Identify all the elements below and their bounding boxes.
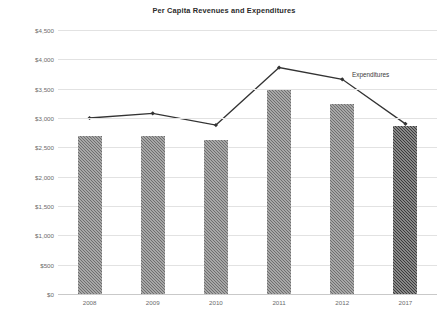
gridline <box>58 89 437 90</box>
gridline <box>58 265 437 266</box>
x-axis-tick-label: 2008 <box>60 299 120 306</box>
y-axis-tick-label: $2,500 <box>8 144 54 151</box>
plot-area <box>58 30 437 294</box>
y-axis-tick-label: $4,000 <box>8 56 54 63</box>
x-axis-tick-label: 2011 <box>249 299 309 306</box>
expenditures-line-series <box>58 30 437 294</box>
y-axis-tick-label: $2,000 <box>8 173 54 180</box>
bar-revenues <box>78 136 102 294</box>
gridline <box>58 206 437 207</box>
y-axis-tick-label: $3,000 <box>8 115 54 122</box>
gridline <box>58 235 437 236</box>
chart-container: Per Capita Revenues and Expenditures Exp… <box>0 0 448 317</box>
gridline <box>58 294 437 295</box>
bar-revenues <box>393 126 417 294</box>
gridline <box>58 118 437 119</box>
gridline <box>58 59 437 60</box>
chart-title: Per Capita Revenues and Expenditures <box>0 6 448 15</box>
bar-revenues <box>267 90 291 294</box>
y-axis-tick-label: $500 <box>8 261 54 268</box>
gridline <box>58 177 437 178</box>
x-axis-tick-label: 2012 <box>312 299 372 306</box>
y-axis-tick-label: $3,500 <box>8 85 54 92</box>
y-axis-tick-label: $4,500 <box>8 27 54 34</box>
y-axis-tick-label: $1,500 <box>8 203 54 210</box>
bar-revenues <box>141 136 165 294</box>
x-axis-tick-label: 2010 <box>186 299 246 306</box>
gridline <box>58 30 437 31</box>
series-label-expenditures: Expenditures <box>352 71 389 78</box>
y-axis-tick-label: $1,000 <box>8 232 54 239</box>
bar-revenues <box>330 104 354 294</box>
bar-revenues <box>204 140 228 294</box>
x-axis-tick-label: 2017 <box>375 299 435 306</box>
gridline <box>58 147 437 148</box>
x-axis-tick-label: 2009 <box>123 299 183 306</box>
data-point-marker <box>151 111 155 115</box>
y-axis-tick-label: $0 <box>8 291 54 298</box>
